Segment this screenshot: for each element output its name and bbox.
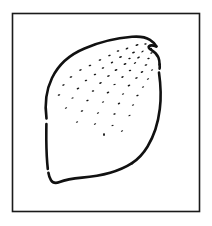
illustration-root: [0, 0, 212, 226]
potato-drawing-canvas: [0, 0, 212, 226]
potato-outline-segment-left-flank-lower: [46, 124, 48, 169]
stipple-dot: [103, 133, 105, 136]
